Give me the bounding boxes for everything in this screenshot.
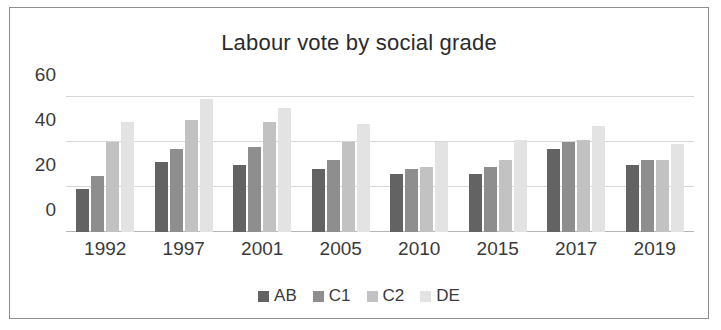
legend-label: AB xyxy=(274,286,297,306)
chart-frame: Labour vote by social grade 0204060 1992… xyxy=(9,7,709,319)
bar-group xyxy=(223,86,302,232)
legend-item[interactable]: C2 xyxy=(367,286,405,306)
bar[interactable] xyxy=(263,122,276,232)
y-axis-tick-label: 60 xyxy=(35,64,56,86)
bar[interactable] xyxy=(248,147,261,232)
bar[interactable] xyxy=(656,160,669,232)
bar[interactable] xyxy=(155,162,168,232)
legend-swatch-icon xyxy=(420,291,431,302)
bar[interactable] xyxy=(76,189,89,232)
x-axis-tick-label: 2005 xyxy=(302,238,381,260)
bar[interactable] xyxy=(484,167,497,232)
bar[interactable] xyxy=(514,140,527,232)
legend-swatch-icon xyxy=(367,291,378,302)
bar[interactable] xyxy=(327,160,340,232)
legend-label: DE xyxy=(436,286,460,306)
x-axis-tick-label: 1997 xyxy=(145,238,224,260)
bar[interactable] xyxy=(592,126,605,232)
bar-group xyxy=(616,86,695,232)
x-axis-tick-label: 2017 xyxy=(537,238,616,260)
bar[interactable] xyxy=(671,144,684,232)
legend-item[interactable]: AB xyxy=(258,286,297,306)
y-axis-tick-label: 40 xyxy=(35,109,56,131)
bar-group xyxy=(302,86,381,232)
legend-item[interactable]: DE xyxy=(420,286,460,306)
legend-swatch-icon xyxy=(313,291,324,302)
bar-group xyxy=(66,86,145,232)
y-axis-tick-label: 20 xyxy=(35,154,56,176)
bar[interactable] xyxy=(626,165,639,232)
bar[interactable] xyxy=(91,176,104,232)
bar[interactable] xyxy=(469,174,482,232)
plot-area: 0204060 xyxy=(66,86,694,232)
bar[interactable] xyxy=(577,140,590,232)
bar[interactable] xyxy=(641,160,654,232)
bar-group xyxy=(459,86,538,232)
x-axis-tick-label: 2015 xyxy=(459,238,538,260)
bar[interactable] xyxy=(170,149,183,232)
x-axis-tick-label: 2010 xyxy=(380,238,459,260)
legend-swatch-icon xyxy=(258,291,269,302)
x-axis-tick-label: 2019 xyxy=(616,238,695,260)
y-axis-tick-label: 0 xyxy=(45,199,56,221)
bar[interactable] xyxy=(499,160,512,232)
bar[interactable] xyxy=(390,174,403,232)
bar[interactable] xyxy=(405,169,418,232)
legend-item[interactable]: C1 xyxy=(313,286,351,306)
x-axis-labels: 19921997200120052010201520172019 xyxy=(66,238,694,260)
bar[interactable] xyxy=(185,120,198,232)
bar[interactable] xyxy=(357,124,370,232)
bar[interactable] xyxy=(312,169,325,232)
bar[interactable] xyxy=(420,167,433,232)
bar[interactable] xyxy=(278,108,291,232)
bar[interactable] xyxy=(562,142,575,232)
chart-legend: ABC1C2DE xyxy=(10,286,708,306)
x-axis-tick-label: 2001 xyxy=(223,238,302,260)
bar[interactable] xyxy=(435,142,448,232)
bar[interactable] xyxy=(121,122,134,232)
bar-groups xyxy=(66,86,694,232)
legend-label: C1 xyxy=(329,286,351,306)
bar[interactable] xyxy=(106,142,119,232)
bar[interactable] xyxy=(200,99,213,232)
bar-group xyxy=(380,86,459,232)
chart-title: Labour vote by social grade xyxy=(10,30,708,56)
legend-label: C2 xyxy=(383,286,405,306)
bar[interactable] xyxy=(547,149,560,232)
bar[interactable] xyxy=(233,165,246,232)
x-axis-tick-label: 1992 xyxy=(66,238,145,260)
bar[interactable] xyxy=(342,142,355,232)
bar-group xyxy=(145,86,224,232)
bar-group xyxy=(537,86,616,232)
